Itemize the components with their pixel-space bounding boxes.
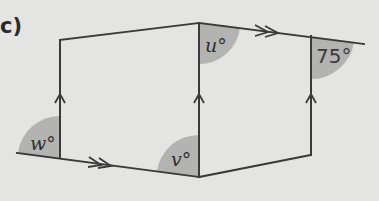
- bottom-right-edge: [199, 155, 311, 177]
- angle-label-v: v°: [171, 150, 191, 169]
- diagram-lines: [0, 0, 379, 201]
- angle-label-w: w°: [30, 134, 56, 153]
- angle-label-75: 75°: [316, 46, 351, 66]
- geometry-diagram: c) w° v° u° 75°: [0, 0, 379, 201]
- angle-label-u: u°: [205, 36, 227, 55]
- top-left-edge: [60, 23, 199, 40]
- part-label: c): [0, 14, 22, 38]
